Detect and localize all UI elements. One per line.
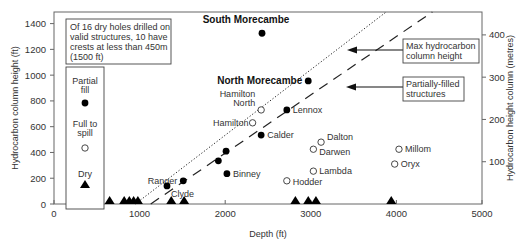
partial-fill-marker	[215, 157, 222, 164]
y-tick-label: 1400	[25, 18, 46, 29]
x-tick-label: 1000	[129, 208, 150, 219]
legend-label: fill	[81, 85, 90, 95]
note-line: Of 16 dry holes drilled on	[70, 22, 170, 32]
arrowhead-icon	[346, 84, 356, 91]
y-tick-label: 200	[30, 173, 46, 184]
point-label: Clyde	[171, 189, 194, 199]
annotation-text: Max hydrocarbon	[406, 41, 476, 51]
full-to-spill-marker	[391, 161, 397, 167]
scatter-chart: 0100020003000400050000200400600800100012…	[0, 0, 528, 248]
y-right-tick-label: 300	[489, 72, 505, 83]
arrowhead-icon	[347, 47, 357, 54]
y-right-tick-label: 100	[489, 156, 505, 167]
y-right-tick-label: 400	[489, 29, 505, 40]
full-to-spill-marker	[310, 146, 316, 152]
dry-marker	[386, 196, 396, 204]
annotation-text: structures	[406, 89, 446, 99]
trend-lines	[135, 12, 432, 204]
point-label: North	[233, 98, 255, 108]
point-label: Millom	[405, 144, 431, 154]
partial-fill-marker	[283, 107, 290, 114]
point-label: Hodder	[293, 177, 323, 187]
point-label: Lambda	[319, 166, 352, 176]
y-tick-label: 800	[30, 95, 46, 106]
point-label: Binney	[233, 169, 261, 179]
point-label: Calder	[267, 130, 294, 140]
y-right-tick-label: 200	[489, 114, 505, 125]
full-to-spill-marker	[318, 139, 324, 145]
dry-marker	[105, 196, 115, 204]
dry-marker	[311, 196, 321, 204]
full-to-spill-marker	[249, 120, 255, 126]
x-tick-label: 4000	[386, 208, 407, 219]
legend-label: spill	[77, 128, 93, 138]
point-label: Ranger	[148, 176, 178, 186]
x-axis-title: Depth (ft)	[249, 229, 287, 239]
full-to-spill-marker	[284, 178, 290, 184]
note-line: (1500 ft)	[70, 52, 104, 62]
y-tick-label: 1000	[25, 70, 46, 81]
x-tick-label: 0	[51, 208, 56, 219]
note-line: crests at less than 450m	[70, 42, 168, 52]
full-to-spill-marker	[258, 107, 264, 113]
point-label: Lennox	[293, 105, 323, 115]
dry-marker	[290, 196, 300, 204]
annotation-text: column height	[406, 51, 463, 61]
point-label: North Morecambe	[217, 75, 302, 86]
point-label: South Morecambe	[203, 14, 290, 25]
x-tick-label: 2000	[215, 208, 236, 219]
partial-fill-marker	[258, 132, 265, 139]
point-label: Hamilton	[213, 118, 249, 128]
point-label: Oryx	[401, 159, 420, 169]
annotation-boxes: Of 16 dry holes drilled onvalid structur…	[66, 19, 479, 209]
legend-partial-fill-marker	[82, 100, 89, 107]
partially-filled-line	[151, 12, 433, 204]
legend-label: Dry	[78, 169, 92, 179]
partial-fill-marker	[259, 30, 266, 37]
legend-full-to-spill-marker	[82, 145, 88, 151]
partial-fill-marker	[223, 148, 230, 155]
point-label: Dalton	[327, 132, 353, 142]
y-axis-right-title: Hydrocarbon height column (metres)	[505, 35, 515, 181]
partial-fill-marker	[224, 170, 231, 177]
y-tick-label: 400	[30, 147, 46, 158]
note-line: valid structures, 10 have	[70, 32, 168, 42]
x-tick-label: 5000	[471, 208, 492, 219]
y-axis-title: Hydrocarbon column height (ft)	[10, 46, 20, 170]
partial-fill-marker	[305, 78, 312, 85]
point-label: Darwen	[319, 147, 350, 157]
partial-fill-marker	[180, 177, 187, 184]
annotation-text: Partially-filled	[406, 79, 460, 89]
full-to-spill-marker	[310, 168, 316, 174]
x-tick-label: 3000	[300, 208, 321, 219]
full-to-spill-marker	[396, 146, 402, 152]
y-tick-label: 0	[41, 199, 46, 210]
partial-fill-marker	[164, 183, 171, 190]
y-tick-label: 600	[30, 121, 46, 132]
y-tick-label: 1200	[25, 44, 46, 55]
